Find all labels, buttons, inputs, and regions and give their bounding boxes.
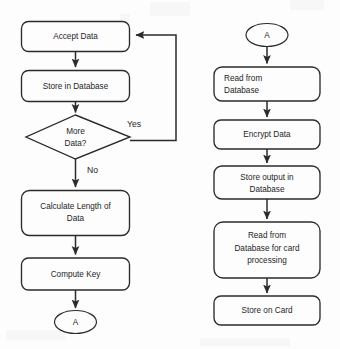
store-output-box[interactable] — [214, 166, 320, 199]
store-output-label-line2: Database — [249, 185, 284, 194]
node-store-on-card[interactable]: Store on Card — [214, 296, 320, 325]
more-data-diamond[interactable] — [26, 115, 130, 159]
compute-key-label: Compute Key — [51, 270, 102, 279]
edge-label-yes: Yes — [127, 119, 141, 129]
node-accept-data[interactable]: Accept Data — [22, 22, 130, 52]
read-for-card-label-line3: processing — [247, 256, 287, 265]
node-more-data-decision[interactable]: More Data? — [26, 115, 130, 159]
read-from-database-label-line2: Database — [224, 86, 259, 95]
read-for-card-label-line1: Read from — [248, 231, 286, 240]
flowchart-canvas: Accept Data Store in Database More Data?… — [0, 0, 340, 349]
node-read-for-card[interactable]: Read from Database for card processing — [214, 222, 320, 278]
store-on-card-label: Store on Card — [242, 306, 293, 315]
node-read-from-database[interactable]: Read from Database — [214, 67, 320, 101]
node-connector-a-in[interactable]: A — [246, 24, 288, 47]
connector-a-out-label: A — [73, 318, 79, 327]
calculate-length-box[interactable] — [22, 191, 130, 236]
node-encrypt-data[interactable]: Encrypt Data — [214, 120, 320, 149]
connector-a-in-label: A — [264, 31, 270, 40]
read-from-database-label-line1: Read from — [224, 74, 262, 83]
read-from-database-box[interactable] — [214, 67, 320, 101]
flowchart-svg: Accept Data Store in Database More Data?… — [0, 0, 340, 349]
store-in-database-label: Store in Database — [43, 82, 109, 91]
more-data-label-line1: More — [66, 127, 85, 136]
calculate-length-label-line2: Data — [67, 214, 85, 223]
node-store-output[interactable]: Store output in Database — [214, 166, 320, 199]
encrypt-data-label: Encrypt Data — [243, 130, 291, 139]
node-connector-a-out[interactable]: A — [55, 311, 97, 334]
node-store-in-database[interactable]: Store in Database — [22, 71, 130, 102]
more-data-label-line2: Data? — [65, 139, 87, 148]
edge-label-no: No — [87, 165, 98, 175]
accept-data-label: Accept Data — [53, 32, 98, 41]
read-for-card-label-line2: Database for card — [234, 244, 300, 253]
node-compute-key[interactable]: Compute Key — [22, 258, 130, 290]
calculate-length-label-line1: Calculate Length of — [40, 202, 111, 211]
store-output-label-line1: Store output in — [240, 173, 294, 182]
node-calculate-length[interactable]: Calculate Length of Data — [22, 191, 130, 236]
